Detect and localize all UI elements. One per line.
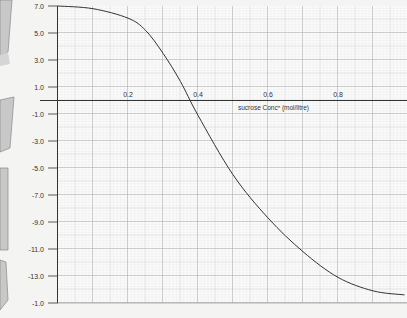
y-tick-label: 7.0 (14, 3, 44, 10)
x-tick-label: 0.2 (123, 91, 133, 98)
y-tick-label: 1.0 (14, 84, 44, 91)
y-tick-label: 5.0 (14, 30, 44, 37)
y-tick-label: -11.0 (14, 246, 44, 253)
y-tick-label: -13.0 (14, 273, 44, 280)
y-tick-label: -1.0 (14, 111, 44, 118)
x-tick-label: 0.6 (263, 91, 273, 98)
grid (58, 6, 407, 303)
x-tick-label: 0.8 (333, 91, 343, 98)
y-axis (48, 6, 58, 303)
chart-area (0, 0, 407, 318)
y-tick-label: -1.0 (14, 300, 44, 307)
x-tick-label: 0.4 (193, 91, 203, 98)
y-tick-label: -5.0 (14, 165, 44, 172)
y-tick-label: 3.0 (14, 57, 44, 64)
y-tick-label: -7.0 (14, 192, 44, 199)
y-tick-label: -9.0 (14, 219, 44, 226)
x-axis-title: sucrose Concⁿ (mol/litre) (238, 104, 309, 111)
y-tick-label: -3.0 (14, 138, 44, 145)
